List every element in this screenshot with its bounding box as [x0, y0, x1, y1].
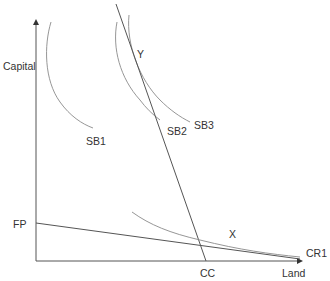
diagram-canvas: Capital Land SB1 SB2 SB3 Y X FP CR1 CC [0, 0, 330, 281]
sb1-curve [47, 22, 93, 128]
x-curve [132, 212, 300, 257]
cr1-label: CR1 [306, 247, 327, 259]
y-axis-label: Capital [3, 60, 36, 72]
sb1-label: SB1 [86, 135, 106, 147]
point-x-label: X [229, 228, 236, 240]
fp-label: FP [13, 218, 26, 230]
cc-line [116, 4, 206, 261]
sb2-label: SB2 [167, 125, 187, 137]
cr1-line [36, 223, 300, 259]
point-y-label: Y [137, 48, 144, 60]
sb3-curve [129, 15, 190, 122]
sb3-label: SB3 [194, 119, 214, 131]
cc-label: CC [200, 267, 216, 279]
x-axis-label: Land [282, 267, 306, 279]
sb2-curve [116, 22, 160, 120]
